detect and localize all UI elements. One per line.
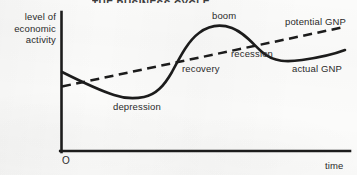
annotation-boom: boom (212, 10, 236, 22)
origin-label: O (62, 155, 70, 167)
annotation-potential-gnp: potential GNP (285, 16, 346, 28)
annotation-recovery: recovery (182, 63, 220, 75)
annotation-depression: depression (113, 101, 161, 113)
y-axis-label: level of economic activity (6, 11, 56, 46)
annotation-recession: recession (231, 48, 273, 60)
potential-gnp-line (62, 28, 342, 87)
business-cycle-figure: THE BUSINESS CYCLE level of economic act… (0, 0, 357, 175)
annotation-actual-gnp: actual GNP (292, 63, 342, 75)
actual-gnp-curve (62, 26, 345, 98)
x-axis-label: time (325, 160, 344, 172)
